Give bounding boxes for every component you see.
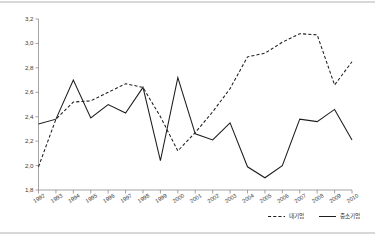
line-chart-plot: 3,23,02,82,62,42,22,01,8 199219931994199… [0,0,375,235]
y-tick-label: 3,2 [25,15,34,22]
chart-figure: 3,23,02,82,62,42,22,01,8 199219931994199… [0,0,375,235]
x-tick-label: 2008 [311,192,325,204]
x-tick-label: 2000 [172,192,186,204]
y-tick-group: 3,23,02,82,62,42,22,01,8 [25,15,39,193]
y-tick-label: 1,8 [25,186,34,193]
x-tick-label: 2003 [224,192,238,204]
y-tick-label: 2,4 [25,113,34,120]
x-axis: 1992199319941995199619971998199920002001… [32,190,359,204]
data-series-group [39,34,353,178]
x-tick-label: 1998 [137,192,151,204]
x-tick-label: 2010 [346,192,360,204]
x-tick-label: 2004 [241,192,255,204]
x-tick-label: 2007 [293,192,307,204]
x-tick-label: 2006 [276,192,290,204]
y-tick-label: 2,8 [25,64,34,71]
y-axis: 3,23,02,82,62,42,22,01,8 [25,15,39,193]
x-tick-label: 2005 [259,192,273,204]
y-tick-label: 3,0 [25,39,34,46]
x-tick-label: 1992 [32,192,46,204]
x-tick-label: 1993 [50,192,64,204]
chart-legend: 대기업중소기업 [268,212,360,220]
x-tick-label: 2002 [206,192,220,204]
series-line-dashed [39,34,353,167]
y-tick-label: 2,2 [25,137,34,144]
x-tick-label: 1996 [102,192,116,204]
series-line-solid [39,78,353,178]
y-tick-label: 2,6 [25,88,34,95]
x-tick-label: 1994 [67,192,81,204]
x-tick-label: 2009 [328,192,342,204]
legend-label: 대기업 [289,212,304,220]
x-tick-label: 1997 [119,192,133,204]
x-tick-label: 1995 [84,192,98,204]
x-tick-label: 2001 [189,192,203,204]
x-tick-label: 1999 [154,192,168,204]
y-tick-label: 2,0 [25,162,34,169]
legend-label: 중소기업 [340,212,360,220]
x-tick-group: 1992199319941995199619971998199920002001… [32,190,359,204]
